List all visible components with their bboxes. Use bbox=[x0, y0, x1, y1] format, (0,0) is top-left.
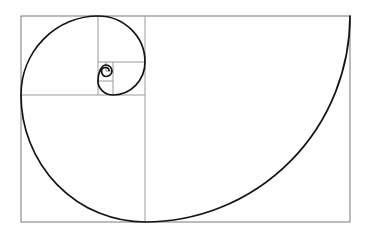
golden-rectangle-svg bbox=[0, 0, 370, 241]
fibonacci-spiral-diagram bbox=[0, 0, 370, 241]
diagram-background bbox=[0, 0, 370, 241]
